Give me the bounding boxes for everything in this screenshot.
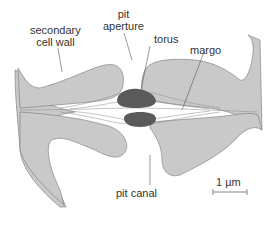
label-secondary-cell-wall: secondary cell wall (30, 24, 81, 48)
label-torus: torus (154, 33, 178, 45)
leader-secondary-cell-wall (58, 48, 62, 72)
label-margo: margo (190, 44, 221, 56)
label-pit-aperture: pit aperture (103, 8, 144, 32)
leader-pit-aperture (124, 33, 132, 60)
secondary-wall-lower-left (20, 112, 127, 205)
scale-bar (213, 189, 247, 195)
secondary-wall-lower-right (150, 113, 262, 175)
label-scale-bar: 1 µm (216, 176, 241, 188)
secondary-wall-upper-left (18, 64, 123, 108)
label-pit-canal: pit canal (116, 187, 157, 199)
torus-lower (124, 112, 156, 127)
